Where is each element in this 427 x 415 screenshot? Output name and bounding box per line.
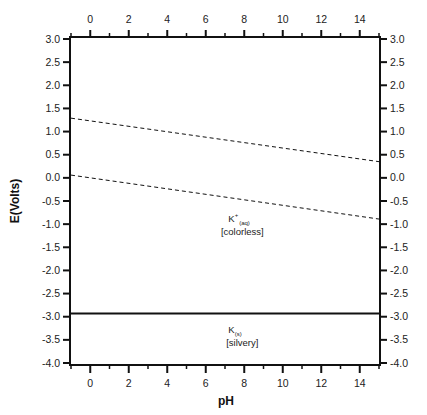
y-right-tick-label: -3.0: [390, 310, 408, 322]
y-right-tick-label: -3.5: [390, 333, 408, 345]
y-right-tick-label: -2.5: [390, 287, 408, 299]
y-right-tick-label: 2.5: [390, 56, 405, 68]
y-left-tick-label: -1.0: [42, 218, 60, 230]
y-left-tick-label: 0.0: [45, 171, 60, 183]
y-axis-title: E(Volts): [8, 179, 22, 223]
x-bottom-tick-label: 2: [126, 377, 132, 389]
x-top-tick-label: 14: [354, 13, 366, 25]
y-left-tick-label: -0.5: [42, 195, 60, 207]
y-right-tick-label: 0.5: [390, 148, 405, 160]
y-left-tick-label: -1.5: [42, 241, 60, 253]
x-bottom-tick-label: 8: [241, 377, 247, 389]
x-bottom-tick-label: 12: [315, 377, 327, 389]
y-right-tick-label: 1.5: [390, 102, 405, 114]
y-left-tick-label: 2.5: [45, 56, 60, 68]
y-left-tick-label: -2.5: [42, 287, 60, 299]
appearance-label: [colorless]: [221, 226, 264, 237]
y-right-tick-label: -2.0: [390, 264, 408, 276]
x-bottom-tick-label: 6: [203, 377, 209, 389]
y-right-tick-label: -1.0: [390, 218, 408, 230]
y-right-tick-label: 0.0: [390, 171, 405, 183]
x-top-tick-label: 2: [126, 13, 132, 25]
x-top-tick-label: 12: [315, 13, 327, 25]
appearance-label: [silvery]: [226, 337, 258, 348]
x-top-tick-label: 8: [241, 13, 247, 25]
x-axis-title: pH: [218, 394, 234, 408]
y-left-tick-label: -2.0: [42, 264, 60, 276]
x-bottom-tick-label: 4: [164, 377, 170, 389]
y-left-tick-label: 3.0: [45, 33, 60, 45]
y-left-tick-label: -4.0: [42, 357, 60, 369]
y-left-tick-label: 2.0: [45, 79, 60, 91]
y-right-tick-label: 1.0: [390, 125, 405, 137]
x-top-tick-label: 4: [164, 13, 170, 25]
y-right-tick-label: -0.5: [390, 195, 408, 207]
y-left-tick-label: 1.0: [45, 125, 60, 137]
y-right-tick-label: 2.0: [390, 79, 405, 91]
x-top-tick-label: 0: [87, 13, 93, 25]
y-left-tick-label: 0.5: [45, 148, 60, 160]
y-right-tick-label: 3.0: [390, 33, 405, 45]
y-right-tick-label: -1.5: [390, 241, 408, 253]
y-left-tick-label: -3.5: [42, 333, 60, 345]
y-left-tick-label: -3.0: [42, 310, 60, 322]
y-right-tick-label: -4.0: [390, 357, 408, 369]
pourbaix-diagram: 00224466881010121214143.03.02.52.52.02.0…: [0, 0, 427, 415]
x-top-tick-label: 6: [203, 13, 209, 25]
x-bottom-tick-label: 0: [87, 377, 93, 389]
x-top-tick-label: 10: [277, 13, 289, 25]
y-left-tick-label: 1.5: [45, 102, 60, 114]
x-bottom-tick-label: 14: [354, 377, 366, 389]
x-bottom-tick-label: 10: [277, 377, 289, 389]
